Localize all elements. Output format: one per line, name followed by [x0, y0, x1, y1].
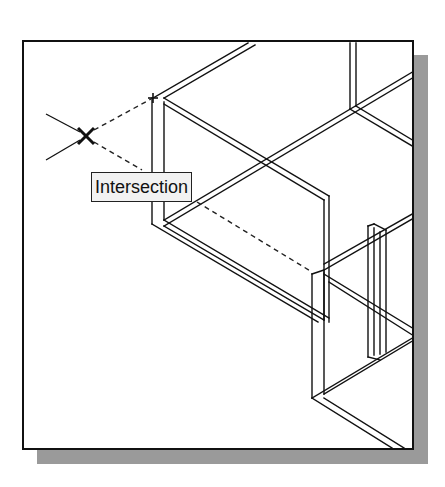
snap-tooltip: Intersection: [91, 172, 192, 202]
drawing-viewport[interactable]: Intersection: [22, 40, 414, 450]
snap-tooltip-label: Intersection: [95, 177, 188, 197]
wireframe-drawing: [24, 42, 412, 448]
